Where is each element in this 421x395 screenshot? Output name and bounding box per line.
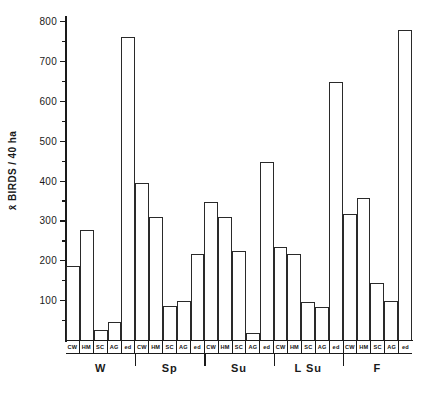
category-label-row: CWHMSCAGedCWHMSCAGedCWHMSCAGedCWHMSCAGed…: [66, 341, 412, 354]
category-label-sc-12: SC: [233, 341, 247, 354]
bar: [398, 30, 412, 340]
group-separator-tick: [343, 354, 344, 366]
y-axis-tick-label: 800: [39, 16, 57, 27]
bar: [149, 217, 163, 340]
plot-area: [66, 18, 412, 340]
group-label-row: WSpSuL SuF: [66, 362, 412, 380]
category-label-ag-23: AG: [385, 341, 399, 354]
category-label-hm-16: HM: [288, 341, 302, 354]
y-axis-tick-label: 700: [39, 55, 57, 66]
bar: [163, 306, 177, 340]
y-axis-tick-label: 500: [39, 135, 57, 146]
group-label-l-su: L Su: [274, 362, 343, 380]
bar: [94, 330, 108, 340]
category-label-sc-17: SC: [302, 341, 316, 354]
bar: [191, 254, 205, 340]
category-label-hm-6: HM: [149, 341, 163, 354]
bar: [370, 283, 384, 340]
category-label-cw-5: CW: [135, 341, 149, 354]
y-axis-tick-label: 200: [39, 255, 57, 266]
bar: [232, 251, 246, 340]
y-axis-tick-label: 100: [39, 295, 57, 306]
category-label-ed-4: ed: [122, 341, 136, 354]
bar: [315, 307, 329, 340]
category-label-sc-2: SC: [94, 341, 108, 354]
category-label-ed-19: ed: [330, 341, 344, 354]
bar: [301, 302, 315, 340]
bar: [121, 37, 135, 340]
group-label-w: W: [66, 362, 135, 380]
y-axis-tick-label: 300: [39, 215, 57, 226]
category-label-hm-11: HM: [219, 341, 233, 354]
category-label-ag-3: AG: [108, 341, 122, 354]
group-label-sp: Sp: [135, 362, 204, 380]
bar: [343, 214, 357, 340]
bar: [66, 266, 80, 340]
category-label-sc-22: SC: [371, 341, 385, 354]
category-label-ed-9: ed: [191, 341, 205, 354]
bar: [204, 202, 218, 340]
category-label-cw-10: CW: [205, 341, 219, 354]
bar: [80, 230, 94, 340]
category-label-ed-24: ed: [399, 341, 412, 354]
category-label-ag-18: AG: [316, 341, 330, 354]
y-axis-tick-label: 600: [39, 95, 57, 106]
y-axis: 100200300400500600700800: [0, 0, 66, 395]
category-label-hm-1: HM: [80, 341, 94, 354]
group-separator-tick: [274, 354, 275, 366]
bar: [108, 322, 122, 340]
bar: [329, 82, 343, 340]
bar: [260, 162, 274, 340]
category-label-sc-7: SC: [163, 341, 177, 354]
bar: [246, 333, 260, 340]
group-label-f: F: [343, 362, 412, 380]
group-separator-tick: [135, 354, 136, 366]
category-label-cw-0: CW: [66, 341, 80, 354]
bar: [218, 217, 232, 340]
group-label-su: Su: [204, 362, 273, 380]
bar: [287, 254, 301, 340]
bar-chart-figure: x̄ BIRDS / 40 ha 10020030040050060070080…: [0, 0, 421, 395]
category-label-ed-14: ed: [260, 341, 274, 354]
category-label-cw-20: CW: [344, 341, 358, 354]
bar: [177, 301, 191, 340]
category-label-cw-15: CW: [274, 341, 288, 354]
bar: [135, 183, 149, 340]
y-axis-tick-label: 400: [39, 175, 57, 186]
bar: [384, 301, 398, 340]
category-label-ag-13: AG: [246, 341, 260, 354]
bar: [357, 198, 371, 340]
category-label-ag-8: AG: [177, 341, 191, 354]
category-label-hm-21: HM: [357, 341, 371, 354]
group-separator-tick: [204, 354, 205, 366]
bar: [274, 247, 288, 340]
